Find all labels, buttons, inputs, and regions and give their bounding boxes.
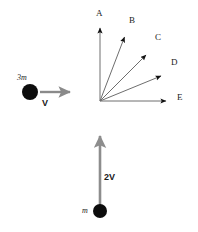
- direction-label-d: D: [171, 58, 178, 67]
- physics-diagram-canvas: 3m V A B C D E 2V m: [0, 0, 198, 232]
- direction-arrow-d[interactable]: [100, 76, 161, 101]
- direction-label-b: B: [129, 16, 135, 25]
- second-mass-ball: [93, 204, 107, 218]
- incoming-mass-ball: [22, 84, 38, 100]
- direction-arrow-b[interactable]: [100, 37, 125, 101]
- direction-label-e: E: [177, 93, 183, 102]
- direction-label-a: A: [96, 9, 103, 18]
- second-mass-label: m: [82, 207, 88, 215]
- direction-label-c: C: [155, 33, 161, 42]
- second-velocity-label: 2V: [104, 173, 115, 182]
- incoming-velocity-label: V: [42, 99, 48, 108]
- diagram-svg: [0, 0, 198, 232]
- incoming-mass-label: 3m: [17, 74, 27, 82]
- direction-arrow-c[interactable]: [100, 55, 146, 101]
